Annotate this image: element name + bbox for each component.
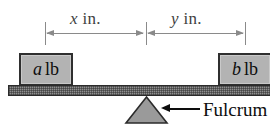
dimension-unit-y: in.: [183, 9, 201, 28]
dimension-label-x: x in.: [70, 10, 101, 27]
weight-unit-b: lb: [244, 59, 258, 80]
fulcrum-callout-arrow-icon: [161, 104, 170, 112]
dimension-line-x: [47, 33, 143, 34]
lever-beam: [8, 85, 270, 96]
dimension-unit-x: in.: [82, 9, 100, 28]
weight-block-left: alb: [19, 53, 73, 86]
weight-variable-b: b: [232, 59, 241, 80]
weight-variable-a: a: [33, 59, 42, 80]
lever-balance-diagram: x in. y in. alb blb Fulcrum: [0, 0, 270, 126]
dimension-label-y: y in.: [171, 10, 202, 27]
arrow-head-y-left-icon: [147, 30, 155, 36]
fulcrum-callout-line: [170, 108, 200, 110]
dimension-line-y: [148, 33, 243, 34]
tick-mark-right: [245, 22, 246, 45]
arrow-head-y-right-icon: [236, 30, 244, 36]
fulcrum-label: Fulcrum: [203, 100, 267, 119]
arrow-head-x-right-icon: [136, 30, 144, 36]
beam-texture: [9, 86, 270, 95]
dimension-variable-x: x: [70, 9, 78, 28]
weight-unit-a: lb: [45, 59, 59, 80]
weight-block-right: blb: [218, 53, 270, 86]
dimension-variable-y: y: [171, 9, 179, 28]
arrow-head-x-left-icon: [46, 30, 54, 36]
